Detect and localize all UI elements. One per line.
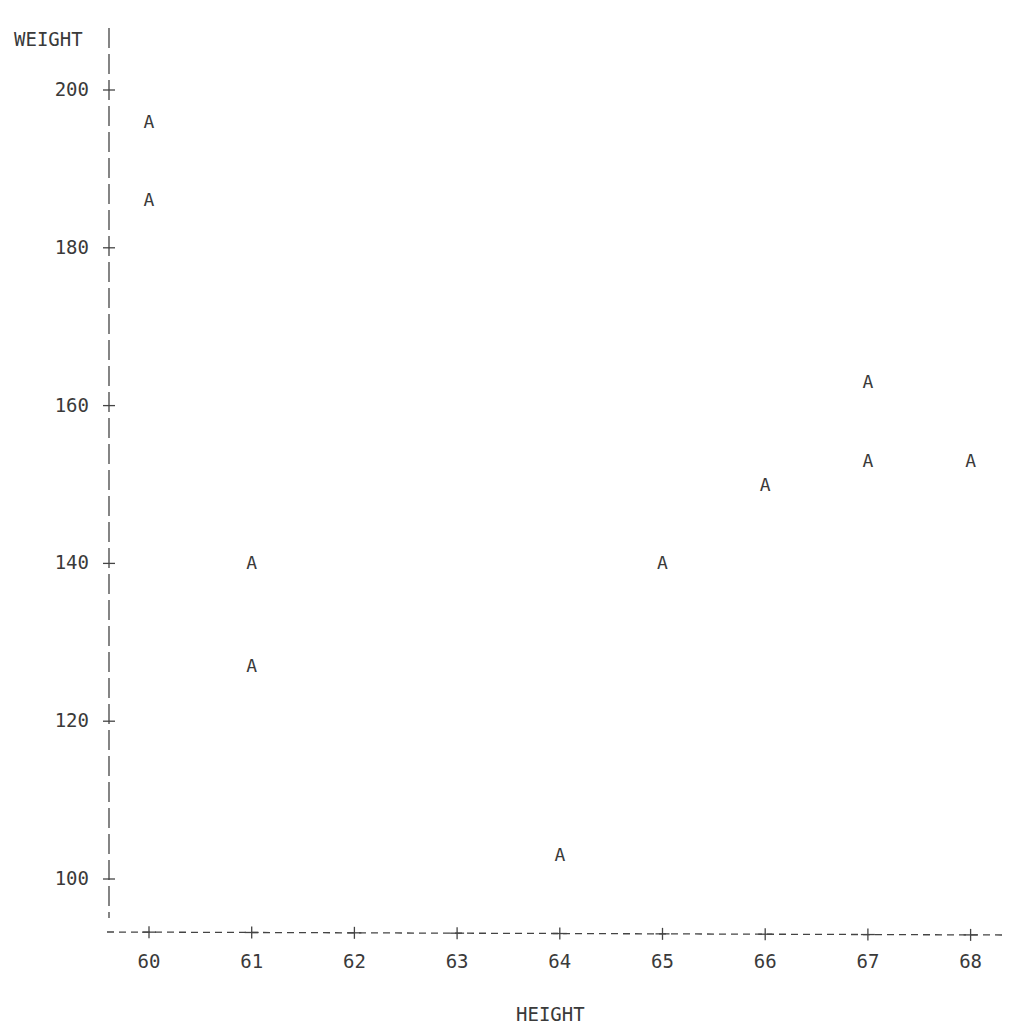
x-tick-label: 66 <box>745 951 785 971</box>
data-point-marker: A <box>139 191 159 209</box>
data-point-marker: A <box>139 113 159 131</box>
data-point-marker: A <box>653 554 673 572</box>
x-tick-label: 61 <box>232 951 272 971</box>
data-point-marker: A <box>242 657 262 675</box>
x-tick-label: 67 <box>848 951 888 971</box>
y-axis-title: WEIGHT <box>14 29 83 49</box>
data-point-marker: A <box>755 476 775 494</box>
x-tick-label: 68 <box>951 951 991 971</box>
data-point-marker: A <box>858 373 878 391</box>
x-tick-label: 64 <box>540 951 580 971</box>
x-tick-label: 65 <box>643 951 683 971</box>
data-point-marker: A <box>961 452 981 470</box>
y-tick-label: 160 <box>19 395 89 415</box>
x-tick-label: 62 <box>334 951 374 971</box>
y-tick-label: 200 <box>19 79 89 99</box>
x-axis-title: HEIGHT <box>516 1004 585 1023</box>
x-tick-label: 63 <box>437 951 477 971</box>
y-tick-label: 180 <box>19 237 89 257</box>
y-tick-label: 140 <box>19 552 89 572</box>
data-point-marker: A <box>550 846 570 864</box>
y-tick-label: 120 <box>19 710 89 730</box>
x-tick-label: 60 <box>129 951 169 971</box>
y-tick-label: 100 <box>19 868 89 888</box>
axes-lines <box>0 0 1011 1023</box>
data-point-marker: A <box>242 554 262 572</box>
data-point-marker: A <box>858 452 878 470</box>
